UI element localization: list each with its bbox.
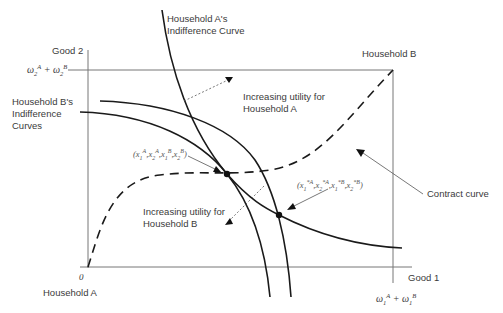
household-a-label: Household A	[43, 287, 97, 299]
household-a-ic-label: Household A's Indifference Curve	[167, 13, 244, 37]
y-endowment-label: ω2A + ω2B	[27, 63, 67, 77]
utility-a-arrow-head	[225, 77, 233, 83]
household-b-label: Household B	[362, 48, 416, 60]
utility-b-arrow-head	[225, 218, 233, 225]
y-axis-label: Good 2	[52, 45, 83, 57]
point-2-pointer	[292, 189, 328, 207]
utility-b-annotation: Increasing utility for Household B	[143, 206, 225, 230]
allocation-point-1	[224, 171, 230, 177]
point-1-label: (x1A,x2A,x1B,x2B)	[133, 148, 187, 161]
household-b-ic-label: Household B's Indifference Curves	[12, 96, 73, 132]
household-b-indifference-curve-upper	[100, 101, 291, 297]
point-2-label: (x1*A,x2*A,x1*B,x2*B)	[297, 179, 363, 192]
x-endowment-label: ω1A + ω1B	[376, 292, 416, 306]
contract-curve	[88, 70, 393, 267]
contract-curve-label: Contract curve	[427, 188, 489, 200]
x-axis-label: Good 1	[408, 272, 439, 284]
allocation-point-2	[276, 212, 282, 218]
utility-a-arrow	[184, 80, 228, 101]
point-2-arrow-head	[287, 203, 296, 210]
utility-a-annotation: Increasing utility for Household A	[243, 91, 325, 115]
origin-label: 0	[79, 272, 84, 282]
